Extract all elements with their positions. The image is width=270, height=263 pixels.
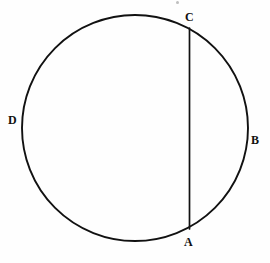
circle-outline [22, 15, 248, 241]
vertex-label-c: C [185, 11, 194, 23]
scan-artifact-speck [176, 1, 179, 4]
vertex-label-d: D [8, 114, 17, 126]
circle-diagram-canvas [0, 0, 270, 263]
vertex-label-b: B [251, 134, 259, 146]
vertex-label-a: A [184, 236, 193, 248]
figure-container: C B D A [0, 0, 270, 263]
